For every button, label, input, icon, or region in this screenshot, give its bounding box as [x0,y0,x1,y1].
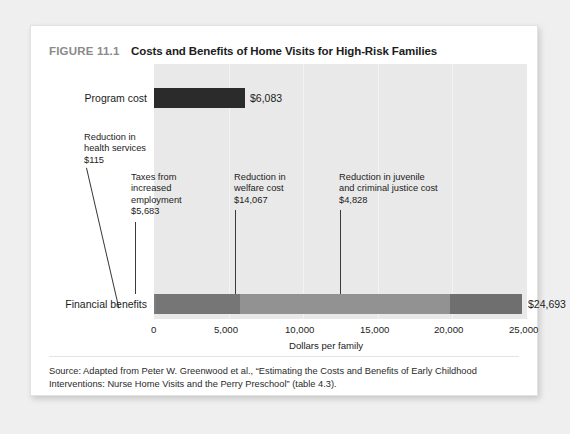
chart-area: Program cost $6,083 Reduction in health … [49,62,521,347]
bar-financial-benefits[interactable] [154,294,523,314]
annotation-health-services-line1: Reduction in [84,132,146,143]
xtick-label-15000: 15,000 [360,324,389,335]
annotation-taxes-employment: Taxes from increased employment $5,683 [131,172,182,218]
leader-line-taxes-employment [135,222,136,294]
annotation-health-services-line2: health services [84,143,146,154]
annotation-health-services-line3: $115 [84,155,146,166]
category-label-program-cost: Program cost [49,88,147,108]
bar-segment-taxes-employment [156,294,241,314]
xtick-label-0: 0 [151,324,156,335]
xtick-label-20000: 20,000 [434,324,463,335]
bar-segment-juvenile-justice [450,294,522,314]
bar-value-financial-benefits: $24,693 [528,294,566,314]
figure-card: FIGURE 11.1 Costs and Benefits of Home V… [30,25,538,396]
leader-line-juvenile-justice [340,210,341,294]
annotation-welfare-cost: Reduction in welfare cost $14,067 [234,172,286,206]
annotation-welfare-cost-line3: $14,067 [234,195,286,206]
annotation-juvenile-justice: Reduction in juvenile and criminal justi… [339,172,438,206]
annotation-taxes-employment-line4: $5,683 [131,206,182,217]
figure-number: FIGURE 11.1 [49,45,120,57]
annotation-taxes-employment-line2: increased [131,183,182,194]
bar-segment-program-cost [154,88,245,108]
source-note: Source: Adapted from Peter W. Greenwood … [49,365,511,390]
annotation-welfare-cost-line1: Reduction in [234,172,286,183]
figure-title: Costs and Benefits of Home Visits for Hi… [131,45,437,57]
xtick-label-10000: 10,000 [285,324,314,335]
page-root: FIGURE 11.1 Costs and Benefits of Home V… [0,0,570,434]
annotation-juvenile-justice-line1: Reduction in juvenile [339,172,438,183]
xtick-label-5000: 5,000 [214,324,238,335]
annotation-taxes-employment-line1: Taxes from [131,172,182,183]
annotation-taxes-employment-line3: employment [131,195,182,206]
source-divider [49,356,519,357]
annotation-juvenile-justice-line3: $4,828 [339,195,438,206]
leader-line-health-services [86,168,119,309]
figure-title-row: FIGURE 11.1 Costs and Benefits of Home V… [49,41,437,59]
gridline-20000 [452,64,453,319]
bar-segment-welfare-cost [240,294,450,314]
annotation-health-services: Reduction in health services $115 [84,132,146,166]
bar-program-cost[interactable] [154,88,245,108]
annotation-juvenile-justice-line2: and criminal justice cost [339,183,438,194]
category-label-financial-benefits: Financial benefits [49,294,147,314]
x-axis-title: Dollars per family [289,340,363,351]
bar-value-program-cost: $6,083 [250,88,282,108]
annotation-welfare-cost-line2: welfare cost [234,183,286,194]
leader-line-welfare-cost [235,210,236,294]
xtick-label-25000: 25,000 [509,324,538,335]
gridline-10000 [303,64,304,319]
